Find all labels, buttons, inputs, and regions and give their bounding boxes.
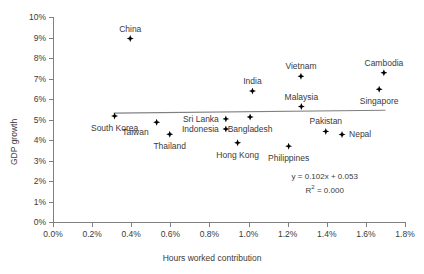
x-tick-mark: [288, 223, 289, 227]
x-tick-label: 0.6%: [161, 229, 180, 239]
y-tick-mark: [49, 79, 53, 80]
y-tick-label: 4%: [34, 135, 46, 145]
x-tick-mark: [131, 223, 132, 227]
y-tick-label: 9%: [34, 33, 46, 43]
y-tick-mark: [49, 181, 53, 182]
data-point-label: Nepal: [349, 129, 371, 139]
data-point-label: Malaysia: [285, 92, 319, 102]
x-tick-mark: [366, 223, 367, 227]
data-point-label: Thailand: [153, 141, 186, 151]
r-squared-value: = 0.000: [317, 185, 344, 194]
data-point-label: China: [119, 24, 141, 34]
x-tick-label: 1.8%: [395, 229, 414, 239]
x-tick-label: 1.0%: [239, 229, 258, 239]
y-tick-mark: [49, 120, 53, 121]
x-axis-title: Hours worked contribution: [0, 253, 424, 263]
data-point-label: Hong Kong: [216, 150, 259, 160]
y-tick-label: 2%: [34, 176, 46, 186]
y-tick-mark: [49, 222, 53, 223]
x-tick-label: 0.0%: [43, 229, 62, 239]
x-tick-mark: [92, 223, 93, 227]
y-tick-mark: [49, 161, 53, 162]
r-squared-exponent: 2: [311, 184, 314, 190]
y-tick-mark: [49, 202, 53, 203]
x-tick-mark: [327, 223, 328, 227]
x-tick-label: 0.8%: [200, 229, 219, 239]
x-tick-mark: [405, 223, 406, 227]
x-tick-mark: [170, 223, 171, 227]
y-tick-label: 10%: [29, 12, 46, 22]
data-point-label: Cambodia: [365, 58, 404, 68]
regression-equation-line: y = 0.102x + 0.053: [292, 172, 358, 183]
y-tick-mark: [49, 38, 53, 39]
y-tick-label: 7%: [34, 74, 46, 84]
x-tick-label: 1.2%: [278, 229, 297, 239]
y-tick-label: 5%: [34, 115, 46, 125]
y-tick-mark: [49, 140, 53, 141]
data-point-label: Indonesia: [182, 124, 219, 134]
r-squared-line: R2 = 0.000: [292, 183, 358, 196]
x-tick-label: 0.2%: [82, 229, 101, 239]
data-point-label: India: [243, 76, 261, 86]
data-point-label: Philippines: [268, 153, 309, 163]
y-tick-label: 3%: [34, 156, 46, 166]
y-tick-mark: [49, 17, 53, 18]
x-tick-mark: [209, 223, 210, 227]
data-point-label: Pakistan: [309, 116, 342, 126]
data-point-label: Taiwan: [122, 127, 148, 137]
data-point-label: Sri Lanka: [183, 114, 219, 124]
x-tick-label: 1.6%: [356, 229, 375, 239]
data-point-label: Bangladesh: [228, 124, 273, 134]
y-tick-mark: [49, 58, 53, 59]
y-tick-label: 8%: [34, 53, 46, 63]
x-tick-mark: [53, 223, 54, 227]
x-tick-mark: [249, 223, 250, 227]
y-axis-title: GDP growth: [9, 119, 19, 165]
y-tick-mark: [49, 99, 53, 100]
y-tick-label: 1%: [34, 197, 46, 207]
x-axis-ticks: 0.0%0.2%0.4%0.6%0.8%1.0%1.2%1.4%1.6%1.8%: [53, 223, 406, 243]
y-tick-label: 0%: [34, 217, 46, 227]
data-point-label: Singapore: [360, 96, 399, 106]
regression-equation-annotation: y = 0.102x + 0.053 R2 = 0.000: [292, 172, 358, 196]
y-tick-label: 6%: [34, 94, 46, 104]
x-tick-label: 0.4%: [122, 229, 141, 239]
data-point-label: Vietnam: [285, 61, 316, 71]
x-tick-label: 1.4%: [317, 229, 336, 239]
scatter-chart: GDP growth Hours worked contribution 0.0…: [0, 0, 424, 274]
